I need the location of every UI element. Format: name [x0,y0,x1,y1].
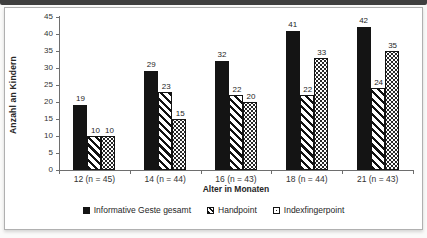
bar-value-label: 32 [207,50,237,59]
y-tick-label: 0 [23,166,53,174]
x-axis [56,170,414,171]
bar-value-label: 29 [136,60,166,69]
legend-item: Indexfingerpoint [273,205,345,215]
bar-value-label: 23 [151,82,181,91]
bar: 10 [87,136,101,170]
top-divider-strip [0,0,427,5]
bar-group: 422435 [342,17,413,170]
x-category-label: 14 (n = 44) [130,174,201,184]
y-tick-label: 35 [23,47,53,55]
y-tick-label: 15 [23,115,53,123]
bar-group: 412233 [271,17,342,170]
bar: 22 [229,95,243,170]
x-tick-mark [413,171,414,174]
legend-marker-diagonal-hatch-icon [207,207,214,214]
y-tick-label: 10 [23,132,53,140]
bar-group: 322220 [201,17,272,170]
y-tick-label: 40 [23,30,53,38]
x-category-label: 18 (n = 44) [271,174,342,184]
bar-value-label: 19 [65,94,95,103]
bar-value-label: 15 [165,109,195,118]
legend-marker-dots-icon [273,207,280,214]
bar: 33 [314,58,328,170]
y-tick-label: 25 [23,81,53,89]
bar: 10 [101,136,115,170]
bar-value-label: 41 [278,20,308,29]
legend-label: Handpoint [218,205,257,215]
x-category-label: 12 (n = 45) [59,174,130,184]
bar-value-label: 42 [349,16,379,25]
bar: 22 [300,95,314,170]
bar: 23 [158,92,172,170]
y-tick-label: 5 [23,149,53,157]
bar: 20 [243,102,257,170]
bar: 15 [172,119,186,170]
bar-group: 292315 [130,17,201,170]
bar: 42 [357,27,371,170]
bar: 41 [286,31,300,170]
legend-label: Informative Geste gesamt [94,205,191,215]
bar: 19 [73,105,87,170]
y-axis-title: Anzahl an Kindern [7,25,19,165]
x-category-label: 21 (n = 43) [342,174,413,184]
page: Anzahl an Kindern 051015202530354045 191… [0,0,427,238]
legend-item: Informative Geste gesamt [83,205,191,215]
chart-frame: Anzahl an Kindern 051015202530354045 191… [4,7,423,230]
bar-value-label: 33 [307,48,337,57]
bar-value-label: 10 [94,126,124,135]
bar-value-label: 20 [236,92,266,101]
y-tick-label: 45 [23,13,53,21]
bar: 35 [385,51,399,170]
bar: 24 [371,88,385,170]
y-tick-label: 20 [23,98,53,106]
legend-marker-solid-icon [83,207,90,214]
x-category-label: 16 (n = 43) [201,174,272,184]
legend: Informative Geste gesamtHandpointIndexfi… [5,205,422,215]
x-axis-title: Alter in Monaten [59,184,413,194]
legend-item: Handpoint [207,205,257,215]
bar-value-label: 35 [378,41,408,50]
bar-group: 191010 [59,17,130,170]
bar: 32 [215,61,229,170]
y-tick-label: 30 [23,64,53,72]
legend-label: Indexfingerpoint [284,205,345,215]
